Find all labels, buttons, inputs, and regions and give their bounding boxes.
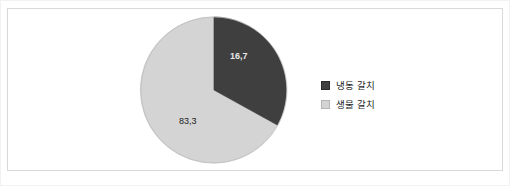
chart-legend: 냉동 갈치 생물 갈치 [321,76,431,114]
pie-value-label-frozen: 16,7 [230,52,248,61]
pie-svg [134,10,294,170]
pie-value-label-fresh: 83,3 [179,117,197,126]
legend-swatch-icon-frozen [321,81,330,90]
legend-label-frozen: 냉동 갈치 [336,81,375,91]
chart-screenshot: 16,7 83,3 냉동 갈치 생물 갈치 [0,0,510,186]
legend-swatch-icon-fresh [321,100,330,109]
pie-chart: 16,7 83,3 [134,10,294,170]
legend-item-frozen[interactable]: 냉동 갈치 [321,76,431,95]
plot-area: 16,7 83,3 냉동 갈치 생물 갈치 [8,9,502,170]
chart-container: 16,7 83,3 냉동 갈치 생물 갈치 [7,8,503,171]
legend-item-fresh[interactable]: 생물 갈치 [321,95,431,114]
legend-label-fresh: 생물 갈치 [336,100,375,110]
